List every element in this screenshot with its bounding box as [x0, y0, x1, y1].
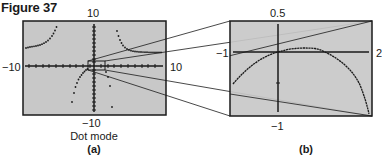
panel-a-plot	[23, 21, 166, 115]
panel-a-x-max-label: 10	[170, 61, 182, 73]
panel-b-caption: (b)	[292, 143, 320, 155]
panel-a-x-min-label: −10	[2, 61, 21, 73]
panel-b-y-min-label: −1	[271, 120, 284, 132]
panel-b-x-min-label: −1	[216, 47, 229, 59]
panel-a-y-min-label: −10	[82, 117, 101, 129]
panel-a-y-max-label: 10	[87, 7, 99, 19]
panel-b-y-max-label: 0.5	[270, 7, 285, 19]
panel-a-caption: (a)	[80, 143, 108, 155]
panel-a-mode-label: Dot mode	[64, 130, 124, 142]
panel-b-x-max-label: 2	[376, 47, 382, 59]
panel-b-plot	[230, 21, 372, 116]
